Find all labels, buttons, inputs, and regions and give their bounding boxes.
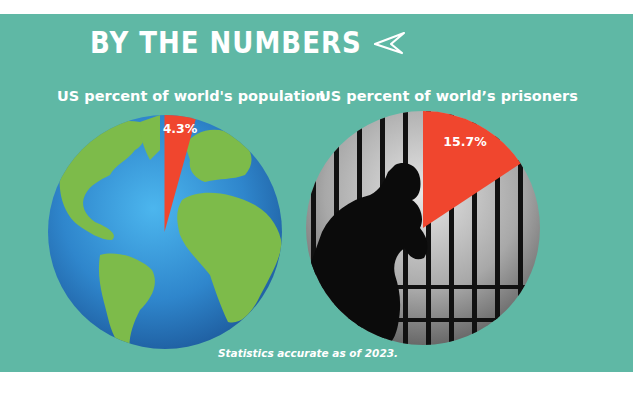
globe-pie-chart: 4.3% [48,115,282,352]
prison-pie-chart: 15.7% [300,110,550,352]
prisoners-value-label: 15.7% [443,134,487,149]
population-value-label: 4.3% [163,121,198,136]
charts: 4.3% 15.7% [0,0,633,393]
footnote: Statistics accurate as of 2023. [218,347,398,359]
